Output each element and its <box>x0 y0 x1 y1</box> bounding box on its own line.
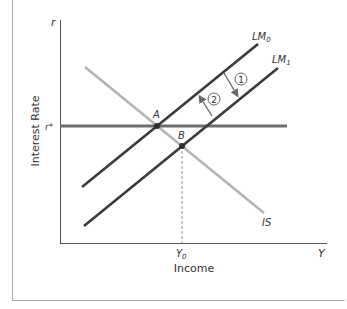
point-b <box>179 143 185 149</box>
point-a-label: A <box>152 109 160 120</box>
islm-diagram: r Y Interest Rate Income r* Y0 IS LM0 LM… <box>0 0 347 309</box>
lm1-label-sub: 1 <box>286 59 290 67</box>
x-axis-symbol: Y <box>318 247 326 260</box>
lm0-curve <box>82 44 258 187</box>
lm1-label: LM1 <box>272 54 291 67</box>
y-axis-label: Interest Rate <box>29 95 42 166</box>
lm0-label-main: LM <box>252 31 267 42</box>
y0-label-sub: 0 <box>182 253 187 261</box>
x-axis-label: Income <box>174 262 215 275</box>
r-star-label: r* <box>45 122 54 132</box>
step2-label: 2 <box>211 95 217 105</box>
step1-label: 1 <box>238 75 244 85</box>
point-b-label: B <box>178 130 185 141</box>
lm0-label-sub: 0 <box>266 36 271 44</box>
lm1-label-main: LM <box>272 54 287 65</box>
step1-arrow <box>224 73 237 95</box>
is-curve <box>85 67 264 213</box>
y0-label: Y0 <box>176 248 187 261</box>
lm0-label: LM0 <box>252 31 271 44</box>
point-a <box>154 123 160 129</box>
y-axis-symbol: r <box>51 16 57 29</box>
is-curve-label: IS <box>262 217 272 228</box>
